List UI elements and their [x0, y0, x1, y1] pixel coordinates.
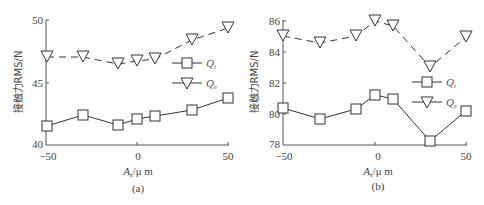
y-tick: 84	[269, 46, 281, 58]
chart-b: 86 84 82 80 78 −50 0 50 接触力RMS/N As/μ m …	[248, 15, 472, 193]
legend-label-qt: Qt	[206, 57, 217, 71]
x-tick: −50	[275, 150, 293, 162]
panel-label: (b)	[372, 180, 385, 193]
x-tick: −50	[39, 150, 57, 162]
series-qe-line	[283, 21, 466, 67]
x-tick: 50	[461, 150, 473, 162]
series-qt-markers	[278, 90, 471, 146]
figure: 50 45 40 −50 0 50 接触力RMS/N As/μ m (a)	[0, 0, 484, 205]
x-axis-label: As/μ m	[122, 165, 153, 179]
y-axis-label: 接触力RMS/N	[12, 51, 24, 114]
legend-a: Qt Qe	[172, 57, 217, 91]
series-qe-markers	[277, 15, 472, 72]
y-tick: 78	[269, 138, 281, 150]
y-tick: 45	[32, 77, 44, 89]
chart-a: 50 45 40 −50 0 50 接触力RMS/N As/μ m (a)	[12, 14, 234, 195]
x-tick: 50	[223, 150, 235, 162]
legend-label-qt: Qt	[446, 76, 457, 90]
legend-label-qe: Qe	[446, 96, 457, 110]
y-tick: 40	[32, 138, 44, 150]
legend-b: Qt Qe	[412, 76, 457, 110]
series-qt-markers	[42, 93, 233, 131]
x-tick: 0	[135, 150, 141, 162]
y-tick: 50	[32, 14, 44, 26]
legend-label-qe: Qe	[206, 77, 217, 91]
x-axis-label: As/μ m	[362, 165, 393, 179]
y-axis-label: 接触力RMS/N	[248, 51, 260, 114]
x-tick: 0	[375, 150, 381, 162]
y-tick: 86	[269, 15, 281, 27]
y-tick: 82	[269, 77, 280, 89]
panel-label: (a)	[132, 182, 145, 195]
